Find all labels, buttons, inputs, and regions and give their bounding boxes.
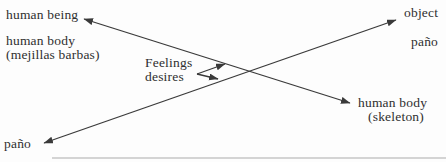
label-human-body-mejillas-barbas: human body (mejillas barbas) bbox=[6, 34, 100, 62]
arrow-feelings-to-upper-line bbox=[197, 64, 225, 74]
label-object: object bbox=[404, 6, 438, 20]
label-feelings-line1: Feelings bbox=[145, 56, 192, 70]
relation-arrows-svg bbox=[0, 0, 446, 162]
label-human-being: human being bbox=[6, 8, 78, 22]
arrow-human-being-to-skeleton bbox=[84, 19, 350, 103]
label-object-text: object bbox=[404, 6, 438, 20]
arrow-feelings-to-lower-line bbox=[197, 74, 218, 79]
label-human-being-text: human being bbox=[6, 8, 78, 22]
label-human-body-left-line2: (mejillas barbas) bbox=[6, 48, 100, 62]
label-human-body-skeleton: human body (skeleton) bbox=[358, 96, 427, 124]
label-pano-bottom-text: paño bbox=[4, 137, 31, 151]
label-pano-right: paño bbox=[411, 35, 438, 49]
label-human-body-right-line1: human body bbox=[358, 96, 427, 110]
label-feelings-line2: desires bbox=[145, 70, 192, 84]
label-feelings-desires: Feelings desires bbox=[145, 56, 192, 84]
label-pano-bottom: paño bbox=[4, 137, 31, 151]
semiotic-relations-diagram: human being human body (mejillas barbas)… bbox=[0, 0, 446, 162]
label-pano-right-text: paño bbox=[411, 35, 438, 49]
label-human-body-left-line1: human body bbox=[6, 34, 100, 48]
label-human-body-right-line2: (skeleton) bbox=[368, 110, 427, 124]
